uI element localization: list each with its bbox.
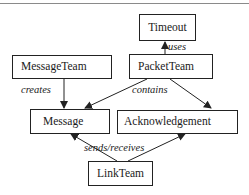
node-label: PacketTeam [138, 61, 194, 73]
node-label: Acknowledgement [124, 116, 211, 128]
node-link-team: LinkTeam [88, 161, 153, 186]
node-acknowledgement: Acknowledgement [117, 110, 238, 134]
edge-label-creates: creates [21, 85, 51, 96]
node-label: Message [43, 116, 83, 128]
node-label: MessageTeam [21, 61, 87, 73]
node-label: LinkTeam [97, 168, 144, 180]
edge-label-contains: contains [132, 85, 168, 96]
edge-label-uses: uses [168, 42, 186, 53]
node-timeout: Timeout [139, 14, 196, 41]
node-label: Timeout [148, 22, 187, 34]
node-message-team: MessageTeam [12, 55, 112, 79]
edge-label-sends-receives: sends/receives [84, 143, 144, 154]
node-packet-team: PacketTeam [129, 54, 213, 79]
node-message: Message [30, 109, 110, 134]
edge-contains-ack [170, 79, 211, 108]
